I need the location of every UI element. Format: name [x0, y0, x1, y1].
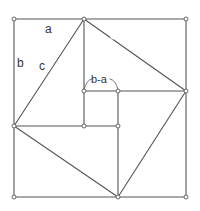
- label-b: b: [17, 56, 24, 70]
- vertex-tilted-right: [184, 89, 188, 93]
- vertex-outer-top-left: [12, 17, 16, 21]
- pythagorean-proof-diagram: a b c b-a: [0, 0, 200, 211]
- vertex-outer-top-right: [184, 17, 188, 21]
- line-gap: [111, 37, 114, 39]
- vertex-outer-bottom-right: [184, 195, 188, 199]
- tilted-square: [14, 19, 186, 197]
- hypotenuse-bottom-right: [118, 91, 186, 197]
- vertices: [12, 17, 188, 199]
- vertex-inner-top-left: [82, 89, 86, 93]
- vertex-inner-bottom-right: [116, 124, 120, 128]
- label-a: a: [45, 22, 52, 36]
- label-b-minus-a: b-a: [91, 73, 108, 85]
- vertex-inner-top-right: [116, 89, 120, 93]
- label-c: c: [39, 59, 45, 73]
- outer-square: [14, 19, 186, 197]
- vertex-inner-bottom-left: [82, 124, 86, 128]
- vertex-tilted-bottom: [116, 195, 120, 199]
- hypotenuse-bottom-left: [14, 126, 118, 197]
- vertex-tilted-left: [12, 124, 16, 128]
- triangle-legs: [14, 19, 186, 197]
- vertex-outer-bottom-left: [12, 195, 16, 199]
- vertex-tilted-top: [82, 17, 86, 21]
